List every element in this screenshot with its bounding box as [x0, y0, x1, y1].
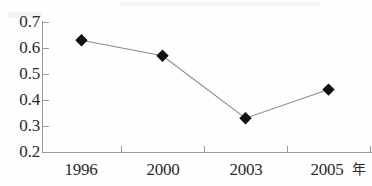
- data-point-marker: [322, 83, 334, 95]
- data-series-layer: [0, 0, 372, 186]
- data-point-marker: [75, 34, 87, 46]
- series-markers: [75, 34, 334, 124]
- line-chart: 0.7 0.6 0.5 0.4 0.3 0.2 1996 2000 2003 2…: [0, 0, 372, 186]
- data-point-marker: [239, 112, 251, 124]
- data-point-marker: [156, 50, 168, 62]
- series-line: [82, 40, 329, 118]
